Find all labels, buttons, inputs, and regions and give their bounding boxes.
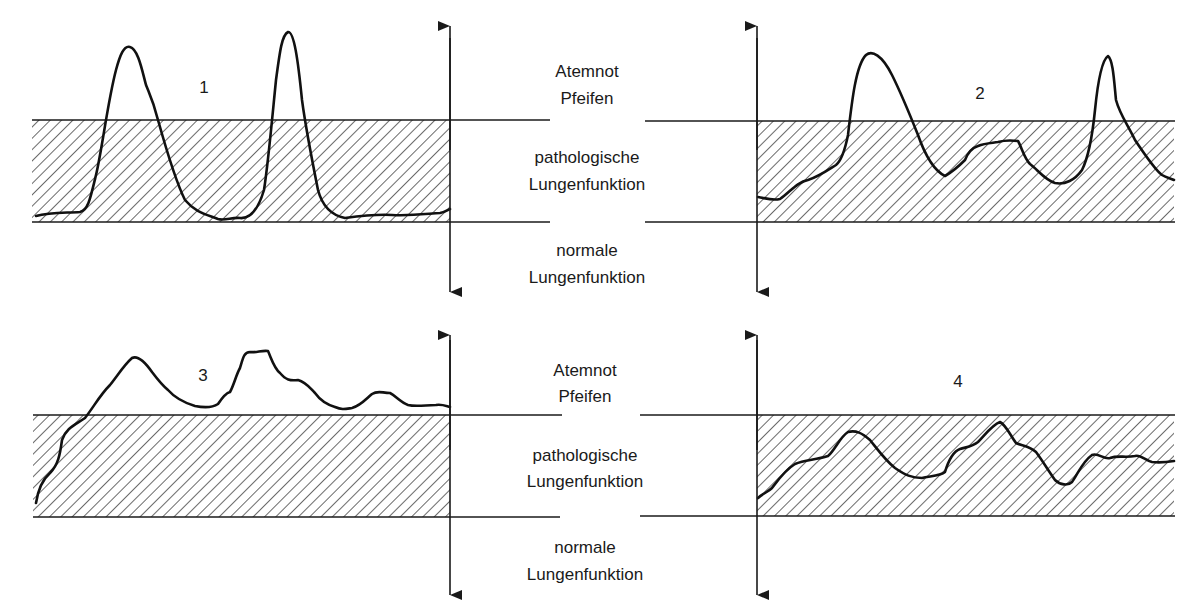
pathologic-band-4 (757, 415, 1174, 516)
zone-upper-line2: Pfeifen (561, 89, 614, 108)
zone-middle-line1: pathologische (535, 148, 640, 167)
zone-upper-line1-b: Atemnot (553, 361, 617, 380)
zone-middle-line2-b: Lungenfunktion (527, 472, 643, 491)
zone-upper-line2-b: Pfeifen (559, 387, 612, 406)
zone-lower-line1: normale (556, 241, 617, 260)
zone-middle-line2: Lungenfunktion (529, 175, 645, 194)
panel-2: 2 (645, 53, 1175, 222)
panel-3: 3 (33, 351, 562, 517)
zone-upper-line1: Atemnot (555, 62, 619, 81)
panel-1-number: 1 (199, 78, 208, 97)
zone-labels-bottom: Atemnot Pfeifen pathologische Lungenfunk… (527, 361, 643, 584)
zone-lower-line1-b: normale (554, 538, 615, 557)
pathologic-band-2 (757, 121, 1174, 222)
zone-labels-top: Atemnot Pfeifen pathologische Lungenfunk… (529, 62, 645, 287)
zone-lower-line2-b: Lungenfunktion (527, 565, 643, 584)
zone-lower-line2: Lungenfunktion (529, 268, 645, 287)
pathologic-band-3 (33, 415, 450, 517)
panel-2-number: 2 (975, 84, 984, 103)
panel-3-number: 3 (198, 366, 207, 385)
lung-function-diagram: 1 2 Atemnot Pfeifen pathologische Lungen… (0, 0, 1200, 614)
panel-1: 1 (32, 32, 550, 222)
zone-middle-line1-b: pathologische (533, 446, 638, 465)
panel-4-number: 4 (953, 372, 962, 391)
pathologic-band-1 (32, 120, 450, 222)
panel-4: 4 (640, 372, 1175, 516)
